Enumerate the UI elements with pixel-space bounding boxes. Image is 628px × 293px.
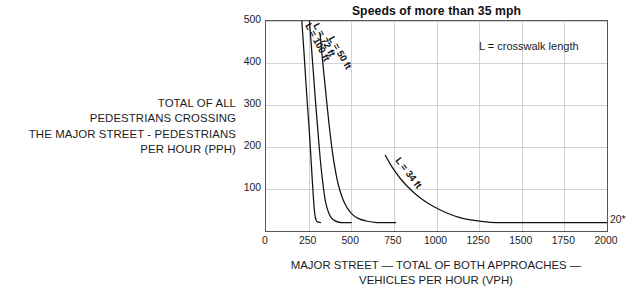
y-axis-title-line-3: THE MAJOR STREET - PEDESTRIANS bbox=[0, 127, 236, 142]
x-axis-title-line-2: VEHICLES PER HOUR (VPH) bbox=[250, 273, 622, 288]
x-tick-label: 750 bbox=[371, 235, 415, 246]
x-axis-tick-labels: 025050075010001250150017502000 bbox=[265, 235, 608, 251]
x-tick-label: 250 bbox=[286, 235, 330, 246]
x-axis-title-line-1: MAJOR STREET — TOTAL OF BOTH APPROACHES … bbox=[250, 258, 622, 273]
x-axis-title: MAJOR STREET — TOTAL OF BOTH APPROACHES … bbox=[250, 258, 622, 289]
y-axis-title-line-1: TOTAL OF ALL bbox=[0, 96, 236, 111]
curve-l-34-ft bbox=[385, 155, 607, 222]
legend-note: L = crosswalk length bbox=[479, 40, 579, 52]
chart-title: Speeds of more than 35 mph bbox=[265, 4, 608, 18]
y-tick-label: 400 bbox=[235, 56, 261, 67]
y-tick-label: 500 bbox=[235, 14, 261, 25]
x-tick-label: 500 bbox=[328, 235, 372, 246]
chart-figure: Speeds of more than 35 mph TOTAL OF ALL … bbox=[0, 0, 628, 293]
x-tick-label: 2000 bbox=[584, 235, 628, 246]
curve-l-50-ft bbox=[320, 34, 396, 223]
x-tick-label: 1000 bbox=[414, 235, 458, 246]
y-axis-title: TOTAL OF ALL PEDESTRIANS CROSSING THE MA… bbox=[0, 96, 236, 157]
floor-annotation: 20* bbox=[610, 214, 626, 225]
x-tick-label: 1500 bbox=[499, 235, 543, 246]
x-tick-label: 1250 bbox=[456, 235, 500, 246]
y-axis-tick-labels: 100200300400500 bbox=[231, 20, 261, 232]
x-tick-label: 1750 bbox=[541, 235, 585, 246]
y-tick-label: 300 bbox=[235, 98, 261, 109]
y-axis-title-line-4: PER HOUR (PPH) bbox=[0, 142, 236, 157]
y-tick-label: 100 bbox=[235, 182, 261, 193]
y-tick-label: 200 bbox=[235, 140, 261, 151]
x-tick-label: 0 bbox=[243, 235, 287, 246]
y-axis-title-line-2: PEDESTRIANS CROSSING bbox=[0, 111, 236, 126]
